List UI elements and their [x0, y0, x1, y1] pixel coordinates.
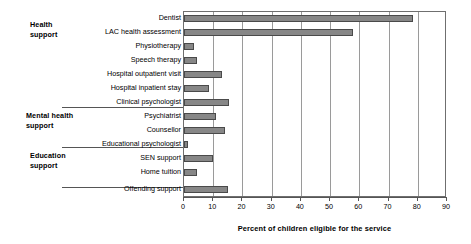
- bar: [184, 169, 197, 176]
- x-tick-label: 60: [346, 202, 370, 211]
- category-label: Clinical psychologist: [116, 98, 181, 106]
- x-tick-label: 80: [405, 202, 429, 211]
- horizontal-bar-chart: Health support Mental health support Edu…: [0, 0, 471, 244]
- x-tick-label: 20: [229, 202, 253, 211]
- category-label: Educational psychologist: [102, 140, 181, 148]
- x-tick-label: 50: [317, 202, 341, 211]
- x-tick-mark: [329, 197, 330, 201]
- gridline: [330, 12, 331, 196]
- gridline: [359, 12, 360, 196]
- x-tick-mark: [388, 197, 389, 201]
- plot-area: [183, 11, 446, 197]
- bar: [184, 71, 222, 78]
- category-label: Dentist: [159, 14, 181, 22]
- x-axis-line: [183, 197, 446, 198]
- gridline: [272, 12, 273, 196]
- x-axis-title: Percent of children eligible for the ser…: [183, 224, 446, 233]
- bar: [184, 141, 188, 148]
- x-tick-label: 10: [200, 202, 224, 211]
- x-tick-mark: [241, 197, 242, 201]
- x-tick-mark: [446, 197, 447, 201]
- bar: [184, 85, 209, 92]
- x-tick-mark: [300, 197, 301, 201]
- x-tick-mark: [271, 197, 272, 201]
- gridline: [301, 12, 302, 196]
- bar: [184, 15, 413, 22]
- x-tick-mark: [358, 197, 359, 201]
- bar: [184, 155, 213, 162]
- x-tick-label: 40: [288, 202, 312, 211]
- x-tick-mark: [212, 197, 213, 201]
- category-label: Offending support: [124, 185, 181, 193]
- category-label: Speech therapy: [131, 56, 181, 64]
- category-label: Hospital inpatient stay: [111, 84, 181, 92]
- gridline: [418, 12, 419, 196]
- x-tick-mark: [183, 197, 184, 201]
- gridline: [389, 12, 390, 196]
- bar: [184, 29, 353, 36]
- category-label: Counsellor: [147, 126, 181, 134]
- category-label: Physiotherapy: [135, 42, 181, 50]
- x-tick-label: 0: [171, 202, 195, 211]
- bar: [184, 186, 228, 193]
- category-label: Hospital outpatient visit: [107, 70, 181, 78]
- category-label: LAC health assessment: [105, 28, 181, 36]
- group-label-health-support: Health support: [30, 20, 57, 39]
- x-tick-mark: [417, 197, 418, 201]
- category-label-column: Dentist LAC health assessment Physiother…: [60, 11, 181, 197]
- category-label: Home tuition: [141, 168, 181, 176]
- category-label: SEN support: [140, 154, 181, 162]
- x-tick-label: 30: [259, 202, 283, 211]
- bar: [184, 113, 216, 120]
- gridline: [242, 12, 243, 196]
- x-tick-label: 70: [376, 202, 400, 211]
- bar: [184, 43, 194, 50]
- bar: [184, 99, 229, 106]
- bar: [184, 57, 197, 64]
- x-tick-label: 90: [434, 202, 458, 211]
- category-label: Psychiatrist: [144, 112, 181, 120]
- bar: [184, 127, 225, 134]
